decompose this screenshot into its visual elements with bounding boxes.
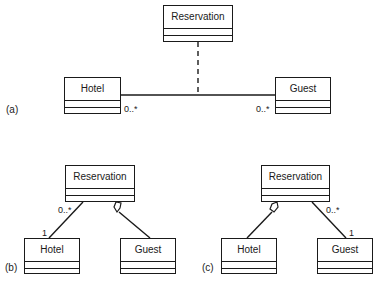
panel-label-a: (a) [6, 104, 18, 115]
class-name: Guest [276, 78, 330, 101]
class-reservation-a: Reservation [163, 5, 233, 42]
multiplicity-guest-c: 1 [349, 228, 354, 238]
class-name: Guest [318, 239, 372, 262]
class-attributes [121, 262, 175, 269]
multiplicity-hotel-b: 1 [42, 228, 47, 238]
class-attributes [222, 262, 276, 269]
class-attributes [66, 189, 134, 196]
class-attributes [318, 262, 372, 269]
class-reservation-c: Reservation [261, 165, 330, 202]
class-name: Hotel [222, 239, 276, 262]
class-hotel-c: Hotel [221, 238, 277, 274]
multiplicity-guest-a: 0..* [256, 104, 270, 114]
class-attributes [164, 29, 232, 36]
class-operations [222, 269, 276, 275]
class-operations [318, 269, 372, 275]
aggregation-line-c-hotel [247, 212, 272, 238]
class-attributes [276, 101, 330, 108]
class-guest-b: Guest [120, 238, 176, 274]
multiplicity-reservation-c: 0..* [326, 205, 340, 215]
class-attributes [65, 101, 120, 108]
class-reservation-b: Reservation [65, 165, 135, 202]
class-guest-c: Guest [317, 238, 373, 274]
class-name: Reservation [164, 6, 232, 29]
class-operations [65, 108, 120, 114]
multiplicity-reservation-b: 0..* [58, 205, 72, 215]
multiplicity-hotel-a: 0..* [124, 104, 138, 114]
class-name: Reservation [66, 166, 134, 189]
class-operations [25, 269, 79, 275]
class-operations [121, 269, 175, 275]
class-name: Reservation [262, 166, 329, 189]
aggregation-diamond-icon [270, 202, 278, 212]
class-attributes [25, 262, 79, 269]
class-name: Guest [121, 239, 175, 262]
panel-label-b: (b) [5, 262, 17, 273]
class-hotel-a: Hotel [64, 77, 121, 114]
class-operations [276, 108, 330, 114]
class-operations [66, 196, 134, 202]
class-guest-a: Guest [275, 77, 331, 114]
class-name: Hotel [25, 239, 79, 262]
class-hotel-b: Hotel [24, 238, 80, 274]
class-operations [262, 196, 329, 202]
class-operations [164, 36, 232, 42]
aggregation-diamond-icon [114, 202, 121, 212]
panel-label-c: (c) [202, 262, 214, 273]
aggregation-line-b-guest [119, 212, 150, 238]
class-attributes [262, 189, 329, 196]
class-name: Hotel [65, 78, 120, 101]
